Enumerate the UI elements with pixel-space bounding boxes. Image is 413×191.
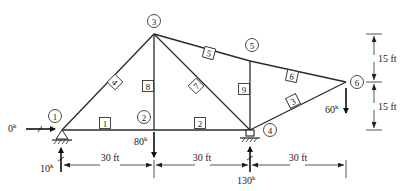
- svg-text:80k: 80k: [134, 135, 148, 147]
- node-1-label: 1: [49, 110, 62, 123]
- member-6-label: 6: [285, 69, 298, 82]
- member-5-label: 5: [202, 46, 215, 59]
- node-3-label: 3: [148, 15, 161, 28]
- member-2-label: 2: [195, 118, 206, 129]
- reaction-node-4: 130k: [237, 147, 256, 186]
- horizontal-dimensions: 30 ft 30 ft 30 ft: [64, 152, 346, 178]
- load-node-2: 80k: [134, 132, 154, 157]
- node-6-label: 6: [351, 76, 364, 89]
- svg-text:6: 6: [355, 78, 360, 88]
- svg-text:30 ft: 30 ft: [193, 152, 212, 163]
- svg-text:4: 4: [268, 126, 273, 136]
- svg-text:1: 1: [103, 119, 108, 129]
- vertical-dimensions: 15 ft 15 ft: [366, 34, 397, 130]
- load-node-6: 60k: [325, 88, 346, 115]
- dim-v-top: 15 ft: [374, 36, 397, 80]
- member-1-label: 1: [100, 118, 111, 129]
- reaction-node-1: 10k: [40, 148, 64, 174]
- node-5-label: 5: [246, 39, 259, 52]
- svg-text:30 ft: 30 ft: [289, 152, 308, 163]
- svg-text:1: 1: [53, 112, 58, 122]
- node-2-label: 2: [138, 111, 151, 124]
- svg-text:5: 5: [250, 41, 255, 51]
- dim-2-4: 30 ft: [156, 152, 248, 165]
- dim-v-bottom: 15 ft: [374, 84, 397, 128]
- pin-support-node-1: [52, 130, 72, 144]
- svg-text:60k: 60k: [325, 103, 339, 115]
- node-4-label: 4: [264, 124, 277, 137]
- dim-4-6: 30 ft: [252, 152, 344, 165]
- svg-text:30 ft: 30 ft: [101, 152, 120, 163]
- svg-text:15 ft: 15 ft: [378, 53, 397, 64]
- svg-text:0k: 0k: [8, 122, 17, 134]
- member-4-label: 4: [107, 74, 123, 90]
- member-9-label: 9: [239, 84, 250, 95]
- svg-text:3: 3: [152, 17, 157, 27]
- svg-text:2: 2: [198, 119, 203, 129]
- svg-text:9: 9: [242, 85, 247, 95]
- svg-text:10k: 10k: [40, 162, 54, 174]
- truss-diagram: 1 2 3 4 5 6 7 8: [0, 0, 413, 191]
- svg-text:15 ft: 15 ft: [378, 101, 397, 112]
- svg-text:2: 2: [142, 113, 147, 123]
- horizontal-load-node-1: 0k: [8, 122, 55, 134]
- member-7-line: [154, 34, 250, 130]
- dim-1-2: 30 ft: [64, 152, 152, 165]
- roller-support-node-4: [240, 130, 260, 142]
- svg-text:130k: 130k: [237, 174, 256, 186]
- truss-members: [62, 34, 346, 130]
- svg-text:8: 8: [146, 82, 151, 92]
- truss-svg: 1 2 3 4 5 6 7 8: [0, 0, 413, 191]
- member-8-label: 8: [143, 81, 154, 92]
